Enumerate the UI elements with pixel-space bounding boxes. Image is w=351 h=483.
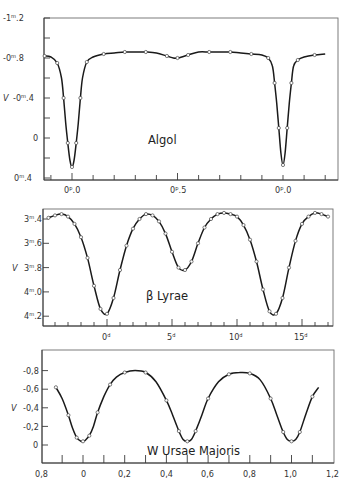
data-point-marker	[81, 440, 84, 443]
data-point-marker	[56, 61, 59, 64]
data-point-marker	[248, 372, 251, 375]
data-point-marker	[99, 307, 102, 310]
beta-lyrae-light-curve	[49, 213, 329, 315]
beta-lyrae-panel: 3ᵐ.4 3ᵐ.6 3ᵐ.8 4ᵐ.0 4ᵐ.2 V 0ᵈ 5ᵈ 10ᵈ 15ᵈ…	[12, 209, 333, 342]
data-point-marker	[92, 284, 95, 287]
w-uma-ytick-label: 0	[33, 440, 38, 450]
data-point-marker	[47, 216, 50, 219]
beta-lyrae-xtick-label: 5ᵈ	[167, 332, 175, 342]
algol-ytick-label: -0ᵐ.8	[3, 53, 24, 63]
algol-xtick-label: 0ᵖ.5	[170, 185, 186, 195]
data-point-marker	[222, 211, 225, 214]
data-point-marker	[298, 430, 301, 433]
w-uma-xtick-label: 0,8	[243, 469, 256, 479]
beta-lyrae-ytick-label: 3ᵐ.6	[24, 238, 42, 248]
data-point-marker	[326, 215, 329, 218]
beta-lyrae-y-ticks	[43, 219, 49, 316]
data-point-marker	[54, 386, 57, 389]
algol-ytick-label: 0ᵐ.4	[14, 173, 32, 183]
w-uma-ytick-label: -0,4	[23, 403, 39, 413]
beta-lyrae-y-axis-label: V	[12, 263, 19, 273]
data-point-marker	[281, 163, 284, 166]
data-point-marker	[290, 81, 293, 84]
data-point-marker	[164, 232, 167, 235]
data-point-marker	[216, 213, 219, 216]
data-point-marker	[311, 395, 314, 398]
data-point-marker	[177, 430, 180, 433]
data-point-marker	[75, 436, 78, 439]
beta-lyrae-xtick-label: 0ᵈ	[102, 332, 110, 342]
algol-ytick-label: 0	[33, 133, 38, 143]
data-point-marker	[269, 397, 272, 400]
data-point-marker	[102, 52, 105, 55]
data-point-marker	[151, 214, 154, 217]
algol-ytick-label: -1ᵐ.2	[3, 13, 24, 23]
data-point-marker	[75, 141, 78, 144]
data-point-marker	[123, 371, 126, 374]
data-point-marker	[294, 239, 297, 242]
data-point-marker	[79, 96, 82, 99]
data-point-marker	[313, 53, 316, 56]
algol-y-ticks	[44, 18, 50, 178]
data-point-marker	[320, 213, 323, 216]
data-point-marker	[66, 215, 69, 218]
data-point-marker	[60, 213, 63, 216]
w-uma-data-points	[54, 371, 314, 443]
w-uma-y-ticks	[42, 371, 48, 445]
data-point-marker	[250, 52, 253, 55]
data-point-marker	[43, 54, 46, 57]
data-point-marker	[277, 126, 280, 129]
data-point-marker	[290, 440, 293, 443]
data-point-marker	[88, 434, 91, 437]
data-point-marker	[165, 54, 168, 57]
data-point-marker	[235, 215, 238, 218]
beta-lyrae-ytick-label: 3ᵐ.4	[24, 214, 42, 224]
data-point-marker	[183, 268, 186, 271]
data-point-marker	[282, 430, 285, 433]
data-point-marker	[131, 227, 134, 230]
beta-lyrae-xtick-label: 10ᵈ	[229, 332, 243, 342]
data-point-marker	[287, 266, 290, 269]
algol-y-axis-label: V	[3, 93, 10, 103]
data-point-marker	[268, 310, 271, 313]
data-point-marker	[85, 60, 88, 63]
beta-lyrae-ytick-label: 4ᵐ.2	[24, 311, 42, 321]
data-point-marker	[177, 266, 180, 269]
algol-xtick-label: 0ᵖ.0	[64, 185, 80, 195]
data-point-marker	[144, 371, 147, 374]
data-point-marker	[242, 224, 245, 227]
w-uma-xtick-label: 0,4	[160, 469, 173, 479]
data-point-marker	[296, 58, 299, 61]
beta-lyrae-x-ticks	[55, 319, 328, 326]
algol-xtick-label: 0ᵖ.0	[275, 185, 291, 195]
data-point-marker	[207, 397, 210, 400]
data-point-marker	[165, 399, 168, 402]
data-point-marker	[187, 53, 190, 56]
algol-frame	[44, 18, 338, 180]
w-uma-xtick-label: 0,2	[118, 469, 131, 479]
data-point-marker	[286, 126, 289, 129]
data-point-marker	[248, 238, 251, 241]
data-point-marker	[194, 430, 197, 433]
w-uma-ytick-label: -0,2	[23, 422, 39, 432]
data-point-marker	[123, 50, 126, 53]
w-uma-light-curve	[56, 371, 319, 442]
data-point-marker	[281, 296, 284, 299]
data-point-marker	[255, 260, 258, 263]
data-point-marker	[96, 411, 99, 414]
w-uma-star-label: W Ursae Majoris	[147, 444, 240, 458]
w-ursae-majoris-panel: -0,8 -0,6 -0,4 -0,2 0 V 0,8 0 0,2 0,4 0,…	[11, 350, 339, 479]
beta-lyrae-ytick-label: 3ᵐ.8	[24, 263, 42, 273]
data-point-marker	[273, 81, 276, 84]
data-point-marker	[73, 222, 76, 225]
data-point-marker	[144, 213, 147, 216]
w-uma-xtick-label: 1,0	[284, 469, 297, 479]
data-point-marker	[203, 226, 206, 229]
algol-star-label: Algol	[148, 133, 177, 147]
data-point-marker	[112, 296, 115, 299]
data-point-marker	[86, 256, 89, 259]
w-uma-y-axis-label: V	[11, 403, 18, 413]
data-point-marker	[274, 312, 277, 315]
data-point-marker	[118, 268, 121, 271]
data-point-marker	[67, 414, 70, 417]
